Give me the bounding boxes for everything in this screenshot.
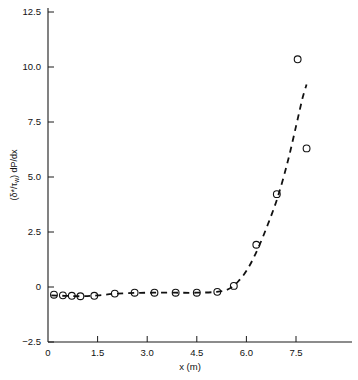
chart-figure: −2.502.55.07.510.012.5 01.53.04.56.07.5 … (0, 0, 358, 380)
x-tick-label: 3.0 (141, 347, 154, 358)
x-tick-label: 1.5 (91, 347, 104, 358)
x-tick-label: 7.5 (289, 347, 302, 358)
y-tick-label: 2.5 (28, 226, 41, 237)
svg-text:(δ*/τw) dP/dx: (δ*/τw) dP/dx (9, 149, 20, 200)
chart-svg: −2.502.55.07.510.012.5 01.53.04.56.07.5 … (0, 0, 358, 380)
x-tick-label: 4.5 (190, 347, 203, 358)
y-tick-label: 5.0 (28, 171, 41, 182)
chart-background (0, 0, 358, 380)
y-tick-label: 0 (36, 281, 41, 292)
y-tick-label: 12.5 (23, 6, 42, 17)
x-tick-label: 6.0 (240, 347, 253, 358)
x-tick-label: 0 (45, 347, 50, 358)
y-tick-label: 10.0 (23, 61, 42, 72)
y-tick-label: −2.5 (22, 336, 41, 347)
y-axis-title: (δ*/τw) dP/dx (9, 149, 20, 200)
x-axis-title: x (m) (179, 361, 201, 372)
ylabel-derivative: dP/dx (9, 149, 19, 173)
y-tick-label: 7.5 (28, 116, 41, 127)
